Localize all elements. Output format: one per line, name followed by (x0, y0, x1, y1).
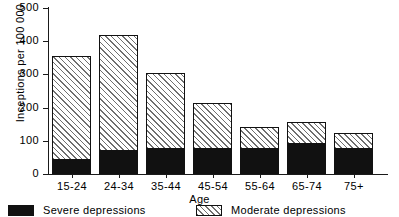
solid-black-swatch-icon (8, 205, 34, 216)
legend-item-moderate-depressions: Moderate depressions (196, 203, 346, 217)
x-axis-tick (260, 174, 261, 178)
bar-group (240, 8, 279, 174)
bar-segment-severe (240, 148, 279, 174)
bar-segment-moderate (146, 73, 185, 148)
chart-legend: Severe depressions Moderate depressions (0, 203, 399, 217)
x-axis-line (48, 174, 388, 175)
bar-segment-moderate (334, 133, 373, 149)
bar-group (99, 8, 138, 174)
y-axis-tick-label: 0 (0, 168, 39, 179)
y-axis-label-wrapper: Inceptions per 100 000 (14, 0, 28, 143)
x-axis-tick (119, 174, 120, 178)
bar-segment-moderate (52, 56, 91, 160)
bar-segment-severe (146, 148, 185, 174)
bar-group (193, 8, 232, 174)
bar-chart-figure: 0100200300400500 Inceptions per 100 000 … (0, 0, 399, 217)
bar-segment-moderate (240, 127, 279, 149)
x-axis-tick-label: 75+ (324, 180, 384, 192)
bar-segment-severe (334, 148, 373, 174)
y-axis-label: Inceptions per 100 000 (14, 0, 26, 143)
x-axis-tick (307, 174, 308, 178)
x-axis-tick (213, 174, 214, 178)
bar-group (287, 8, 326, 174)
legend-item-severe-depressions: Severe depressions (8, 203, 146, 217)
bar-group (146, 8, 185, 174)
bar-group (52, 8, 91, 174)
bar-segment-moderate (193, 103, 232, 149)
bar-group (334, 8, 373, 174)
x-axis-tick (72, 174, 73, 178)
hatched-swatch-icon (196, 205, 222, 216)
bar-segment-severe (287, 143, 326, 174)
bar-segment-moderate (287, 122, 326, 144)
bar-segment-moderate (99, 35, 138, 151)
bar-segment-severe (99, 150, 138, 174)
x-axis-tick (166, 174, 167, 178)
legend-label-moderate-depressions: Moderate depressions (231, 205, 346, 216)
bar-segment-severe (52, 159, 91, 174)
legend-label-severe-depressions: Severe depressions (43, 205, 146, 216)
y-axis-tick (43, 174, 48, 175)
x-axis-tick (354, 174, 355, 178)
bar-segment-severe (193, 148, 232, 174)
plot-area (48, 8, 388, 174)
